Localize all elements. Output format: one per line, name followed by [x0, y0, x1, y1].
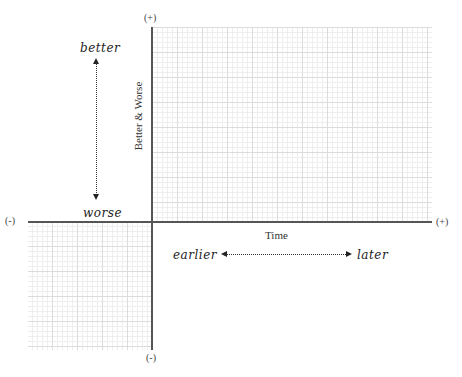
- x-axis-line: [28, 221, 432, 223]
- vertical-dotted-arrow-line: [96, 63, 97, 195]
- worse-label: worse: [83, 206, 122, 220]
- y-axis-negative-sign: (-): [146, 352, 156, 363]
- upper-right-grid-quadrant: [152, 27, 432, 221]
- lower-left-grid-quadrant: [28, 221, 152, 350]
- x-axis-positive-sign: (+): [436, 216, 448, 227]
- y-axis-positive-sign: (+): [144, 12, 156, 23]
- y-axis-line: [151, 27, 153, 350]
- arrow-down-icon: [93, 194, 99, 200]
- y-axis-label: Better & Worse: [132, 66, 144, 166]
- horizontal-dotted-arrow-line: [226, 254, 346, 255]
- later-label: later: [357, 248, 388, 262]
- x-axis-negative-sign: (-): [5, 215, 15, 226]
- better-label: better: [80, 41, 120, 55]
- arrow-right-icon: [346, 251, 352, 257]
- x-axis-label: Time: [265, 229, 288, 241]
- earlier-label: earlier: [173, 248, 217, 262]
